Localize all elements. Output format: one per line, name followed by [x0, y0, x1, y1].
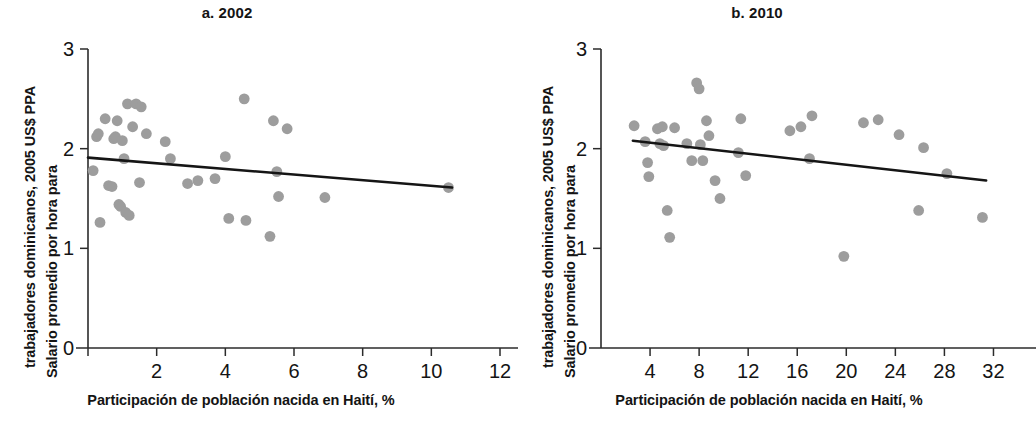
- data-point: [136, 101, 147, 112]
- data-point: [141, 128, 152, 139]
- x-tick-label: 12: [489, 360, 511, 382]
- data-point: [629, 120, 640, 131]
- data-point: [657, 121, 668, 132]
- y-tick-label: 1: [63, 237, 74, 259]
- panel-b: b. 2010 trabajadores dominicanos, 2005 U…: [518, 0, 1036, 431]
- data-point: [127, 121, 138, 132]
- data-point: [740, 170, 751, 181]
- y-tick-label: 0: [63, 337, 74, 359]
- data-point: [210, 173, 221, 184]
- panel-b-svg: 012348121620242832: [518, 0, 1036, 431]
- data-point: [643, 171, 654, 182]
- data-point: [268, 115, 279, 126]
- panel-a: a. 2002 trabajadores dominicanos, 2005 U…: [0, 0, 518, 431]
- data-point: [662, 205, 673, 216]
- panel-a-xlabel: Participación de población nacida en Hai…: [0, 392, 500, 408]
- data-point: [160, 136, 171, 147]
- x-tick-label: 28: [933, 360, 955, 382]
- data-point: [192, 175, 203, 186]
- y-tick-label: 3: [63, 38, 74, 60]
- data-point: [977, 212, 988, 223]
- x-tick-label: 4: [644, 360, 655, 382]
- data-point: [784, 125, 795, 136]
- data-point: [165, 153, 176, 164]
- data-point: [320, 192, 331, 203]
- data-point: [124, 210, 135, 221]
- data-point: [704, 130, 715, 141]
- panel-b-plot: 012348121620242832: [518, 0, 1036, 431]
- data-point: [715, 193, 726, 204]
- data-point: [134, 177, 145, 188]
- x-tick-label: 8: [357, 360, 368, 382]
- data-point: [686, 155, 697, 166]
- data-point: [88, 165, 99, 176]
- data-point: [239, 93, 250, 104]
- data-point: [95, 217, 106, 228]
- data-point: [873, 114, 884, 125]
- data-point: [735, 113, 746, 124]
- data-point: [710, 175, 721, 186]
- y-tick-label: 2: [63, 138, 74, 160]
- data-point: [697, 155, 708, 166]
- y-tick-label: 3: [576, 38, 587, 60]
- x-tick-label: 20: [835, 360, 857, 382]
- panel-b-xlabel: Participación de población nacida en Hai…: [510, 392, 1028, 408]
- y-tick-label: 2: [576, 138, 587, 160]
- y-tick-label: 1: [576, 237, 587, 259]
- x-tick-label: 6: [288, 360, 299, 382]
- data-point: [107, 181, 118, 192]
- data-point: [804, 153, 815, 164]
- data-point: [241, 215, 252, 226]
- data-point: [838, 251, 849, 262]
- data-point: [642, 157, 653, 168]
- data-point: [220, 151, 231, 162]
- data-point: [117, 135, 128, 146]
- data-point: [182, 178, 193, 189]
- trend-line: [633, 141, 986, 181]
- data-point: [701, 115, 712, 126]
- data-point: [664, 232, 675, 243]
- data-point: [918, 142, 929, 153]
- data-point: [694, 83, 705, 94]
- data-point: [282, 123, 293, 134]
- x-tick-label: 2: [151, 360, 162, 382]
- x-tick-label: 8: [694, 360, 705, 382]
- data-point: [265, 231, 276, 242]
- x-tick-label: 12: [737, 360, 759, 382]
- data-point: [93, 128, 104, 139]
- x-tick-label: 10: [420, 360, 442, 382]
- x-tick-label: 16: [786, 360, 808, 382]
- data-point: [894, 129, 905, 140]
- data-point: [273, 191, 284, 202]
- panel-a-svg: 012324681012: [0, 0, 518, 431]
- data-point: [112, 115, 123, 126]
- data-point: [100, 113, 111, 124]
- scatter-figure: a. 2002 trabajadores dominicanos, 2005 U…: [0, 0, 1036, 431]
- data-point: [858, 117, 869, 128]
- data-point: [119, 153, 130, 164]
- x-tick-label: 24: [884, 360, 906, 382]
- data-point: [807, 110, 818, 121]
- x-tick-label: 32: [982, 360, 1004, 382]
- x-tick-label: 4: [220, 360, 231, 382]
- data-point: [223, 213, 234, 224]
- data-point: [913, 205, 924, 216]
- y-tick-label: 0: [576, 337, 587, 359]
- data-point: [669, 122, 680, 133]
- data-point: [796, 121, 807, 132]
- panel-a-plot: 012324681012: [0, 0, 518, 431]
